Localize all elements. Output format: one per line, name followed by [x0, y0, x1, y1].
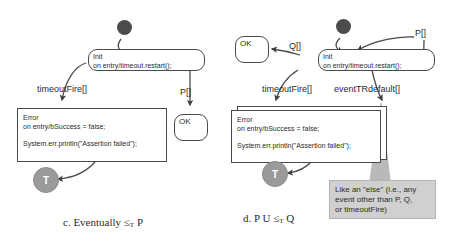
note-callout-d: Like an "else" (i.e., any event other th…: [329, 180, 436, 219]
label-q-d: Q[]: [289, 41, 301, 52]
state-error-d-line2: System.err.println("Assertion failed");: [237, 141, 375, 150]
state-init-c-body: on entry/timeout.restart();: [93, 61, 200, 70]
initial-state-d: [336, 19, 351, 34]
terminal-state-d[interactable]: T: [262, 161, 288, 187]
caption-d: d. P U ≤T Q: [243, 212, 294, 225]
state-error-c-line2: System.err.println("Assertion failed");: [23, 139, 161, 148]
note-line1: Like an "else" (i.e., any: [335, 185, 430, 195]
caption-c-prefix: c. Eventually: [63, 216, 121, 228]
caption-c: c. Eventually ≤T P: [63, 216, 143, 229]
caption-d-subscript: T: [279, 217, 283, 225]
state-error-c-line1: on entry/bSuccess = false;: [23, 122, 161, 131]
state-error-d-line1: on entry/bSuccess = false;: [237, 124, 375, 133]
state-ok-d[interactable]: OK: [235, 36, 269, 63]
state-ok-d-name: OK: [240, 39, 264, 49]
caption-c-subscript: T: [130, 221, 134, 229]
transition-c-error-to-terminal: [58, 162, 95, 179]
label-timeout-fire-c: timeoutFire[]: [37, 84, 87, 95]
caption-d-prefix: d. P U: [243, 212, 270, 224]
label-p-d: P[]: [415, 28, 426, 39]
state-init-d-body: on entry/timeout.restart();: [323, 61, 430, 70]
terminal-state-c[interactable]: T: [33, 167, 59, 193]
state-ok-c-name: OK: [179, 117, 203, 127]
label-p-c: P[]: [180, 87, 191, 98]
state-error-c-name: Error: [23, 113, 161, 122]
state-error-d[interactable]: Error on entry/bSuccess = false; System.…: [231, 110, 381, 163]
state-ok-c[interactable]: OK: [174, 114, 208, 141]
state-error-d-name: Error: [237, 115, 375, 124]
label-timeout-fire-d: timeoutFire[]: [262, 84, 312, 95]
initial-state-c: [117, 20, 132, 35]
caption-d-suffix: Q: [286, 212, 294, 224]
note-line2: event other than P, Q,: [335, 195, 430, 205]
figure-canvas: Init on entry/timeout.restart(); timeout…: [0, 0, 453, 241]
terminal-state-d-label: T: [272, 169, 278, 180]
state-error-c[interactable]: Error on entry/bSuccess = false; System.…: [17, 108, 167, 162]
terminal-state-c-label: T: [43, 175, 49, 186]
note-line3: or timeoutFire): [335, 205, 430, 215]
state-init-d-name: Init: [323, 52, 430, 61]
caption-c-suffix: P: [137, 216, 143, 228]
state-init-c[interactable]: Init on entry/timeout.restart();: [88, 49, 205, 71]
state-init-c-name: Init: [93, 52, 200, 61]
label-event-tr-default-d: eventTRdefault[]: [334, 84, 400, 95]
state-init-d[interactable]: Init on entry/timeout.restart();: [318, 49, 435, 71]
